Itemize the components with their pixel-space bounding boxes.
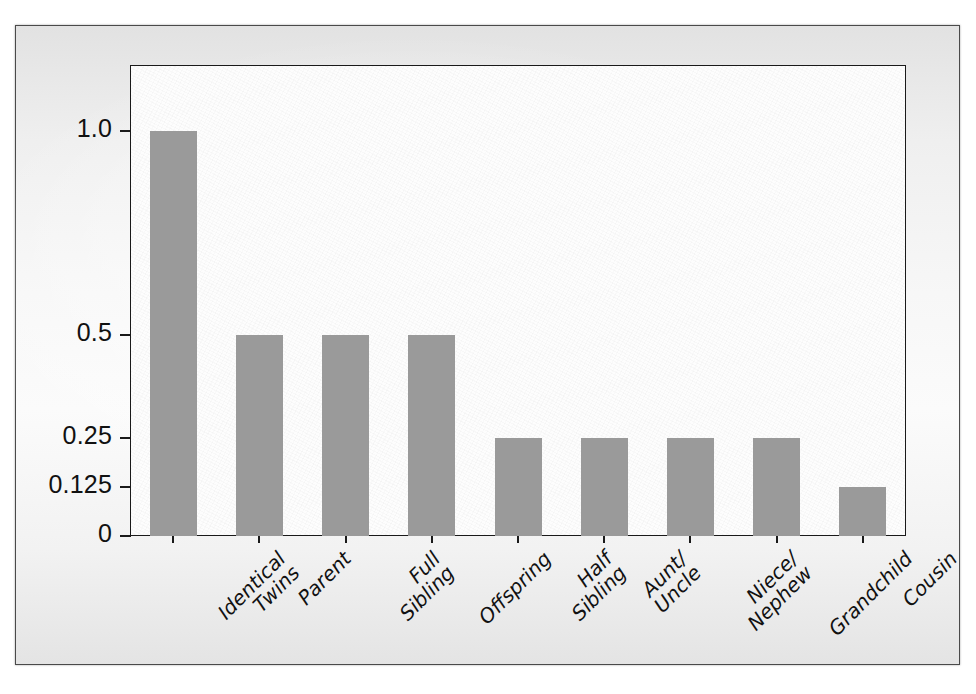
bar-4 <box>408 335 455 536</box>
bar-7 <box>667 438 714 536</box>
y-tick-mark-4 <box>120 535 131 537</box>
bar-6 <box>581 438 628 536</box>
x-tick-mark-8 <box>862 536 864 543</box>
y-tick-mark-2 <box>120 437 131 439</box>
x-tick-mark-3 <box>431 536 433 543</box>
bar-1 <box>150 131 197 536</box>
y-tick-label-0: 0 <box>0 519 112 548</box>
x-tick-mark-2 <box>345 536 347 543</box>
x-tick-mark-1 <box>258 536 260 543</box>
y-tick-mark-1 <box>120 334 131 336</box>
x-tick-mark-7 <box>776 536 778 543</box>
x-tick-mark-4 <box>517 536 519 543</box>
bar-5 <box>495 438 542 536</box>
y-tick-label-0.5: 0.5 <box>0 318 112 347</box>
y-tick-mark-0 <box>120 130 131 132</box>
bar-9 <box>839 487 886 536</box>
chart-page: 1.00.50.250.1250 IdenticalTwinsParentFul… <box>0 0 976 694</box>
y-tick-mark-3 <box>120 486 131 488</box>
x-tick-mark-0 <box>172 536 174 543</box>
y-tick-label-0.25: 0.25 <box>0 421 112 450</box>
bar-2 <box>236 335 283 536</box>
y-tick-label-0.125: 0.125 <box>0 470 112 499</box>
x-tick-mark-5 <box>603 536 605 543</box>
bar-8 <box>753 438 800 536</box>
y-tick-label-1.0: 1.0 <box>0 114 112 143</box>
bar-3 <box>322 335 369 536</box>
x-tick-mark-6 <box>689 536 691 543</box>
